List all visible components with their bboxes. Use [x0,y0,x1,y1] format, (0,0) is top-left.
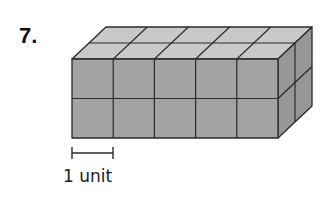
rectangular-prism-of-unit-cubes [0,0,333,199]
unit-label: 1 unit [63,168,112,185]
